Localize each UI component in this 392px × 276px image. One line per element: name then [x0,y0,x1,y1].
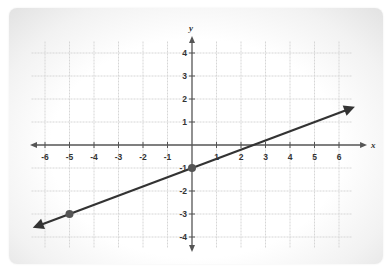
y-tick-label: -2 [179,186,187,196]
y-tick-label: -4 [179,232,187,242]
axes [30,36,367,252]
x-tick-label: 6 [337,152,342,162]
x-tick-label: 2 [239,152,244,162]
data-point [188,164,196,172]
y-axis-up-arrow-icon [189,36,195,43]
y-axis-label: y [188,23,194,33]
x-tick-label: -3 [115,152,123,162]
x-tick-label: -2 [139,152,147,162]
y-tick-label: 3 [182,71,187,81]
data-point [66,210,74,218]
x-tick-label: 5 [312,152,317,162]
x-axis-right-arrow-icon [360,142,367,148]
x-tick-label: -5 [66,152,74,162]
y-tick-label: -3 [179,209,187,219]
x-tick-label: -4 [90,152,98,162]
x-axis-left-arrow-icon [30,142,37,148]
y-tick-label: 1 [182,117,187,127]
x-tick-label: 4 [288,152,293,162]
y-axis-down-arrow-icon [189,245,195,252]
coordinate-plane: -6-5-4-3-2-11234564321-1-2-3-4 x y [0,0,392,276]
y-tick-label: 2 [182,94,187,104]
x-tick-label: -6 [41,152,49,162]
y-tick-label: 4 [182,48,187,58]
x-axis-label: x [370,140,376,150]
x-tick-label: -1 [164,152,172,162]
x-tick-label: 3 [263,152,268,162]
